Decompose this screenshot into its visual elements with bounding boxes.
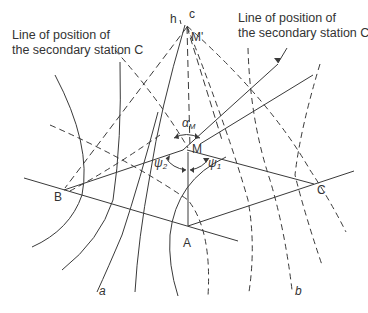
lop-parallel-line bbox=[200, 75, 313, 144]
hyperbola-b5 bbox=[187, 26, 346, 232]
alpha-arrow-right-icon bbox=[195, 133, 200, 139]
baselines bbox=[24, 150, 354, 241]
hyperbola-b1 bbox=[50, 125, 209, 296]
caption-left-line2: the secondary station C bbox=[12, 43, 143, 57]
psi1-arrow-end-icon bbox=[190, 167, 194, 173]
hyperbola-family-b bbox=[50, 26, 346, 296]
label-C: C bbox=[317, 183, 326, 197]
baseline-b-a bbox=[24, 178, 238, 241]
caption-left-line1: Line of position of bbox=[12, 28, 111, 42]
label-b: b bbox=[295, 284, 302, 298]
caption-right: Line of position of the secondary statio… bbox=[238, 11, 368, 40]
label-a: a bbox=[99, 284, 106, 298]
label-h: h bbox=[170, 12, 177, 26]
label-c: c bbox=[189, 7, 195, 21]
baseline-a-c bbox=[188, 171, 354, 226]
caption-right-line1: Line of position of bbox=[238, 11, 337, 25]
lop-pointer bbox=[278, 48, 287, 63]
label-M: M bbox=[192, 142, 202, 156]
line-c-m bbox=[187, 150, 314, 184]
dash-b-top-left bbox=[115, 50, 188, 148]
hyperbola-b3 bbox=[248, 48, 292, 290]
hyperbola-b4 bbox=[295, 64, 322, 265]
hyperbola-a2 bbox=[62, 62, 120, 270]
alpha-arrow-left-icon bbox=[174, 133, 179, 139]
caption-right-line2: the secondary station C bbox=[238, 26, 368, 40]
hyperbolic-navigation-diagram: Line of position of the secondary statio… bbox=[0, 0, 368, 313]
label-M-prime: M' bbox=[191, 30, 203, 44]
tick-h bbox=[180, 20, 181, 24]
hyperbola-a5 bbox=[170, 157, 226, 296]
caption-left: Line of position of the secondary statio… bbox=[12, 28, 143, 57]
dash-left-lower bbox=[68, 135, 160, 192]
label-B: B bbox=[54, 190, 62, 204]
hyperbola-a1 bbox=[32, 75, 84, 247]
psi2-arrow-end-icon bbox=[182, 167, 186, 173]
label-A: A bbox=[183, 236, 191, 250]
line-of-position-right bbox=[183, 48, 313, 150]
